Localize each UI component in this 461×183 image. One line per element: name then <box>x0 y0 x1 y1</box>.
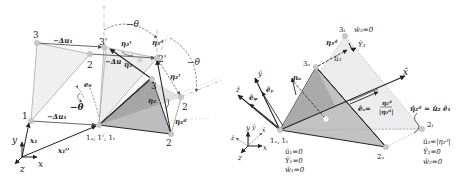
label-eta3-d-right: η₃ᵈ <box>326 38 338 47</box>
label-eta2-t: η₂ᵗ <box>170 72 181 81</box>
label-eta2-d-eq: η̂₂ᵈ = û₂ ê₁ <box>410 104 451 113</box>
label-node-2-t-right: 2ₜ <box>427 121 433 129</box>
label-node-2: 2 <box>87 60 93 70</box>
label-node-1: 1 <box>22 111 28 121</box>
axis-z-label-right: z <box>237 154 242 162</box>
label-eta2-d: η₂ᵈ <box>175 117 187 126</box>
label-e0: e₀ <box>84 80 92 89</box>
label-e-y: êᵧ <box>266 85 274 94</box>
label-du-top: −Δu₁ <box>53 36 72 45</box>
node-2 <box>87 51 92 56</box>
label-node-3-t: 3ₜ <box>339 26 345 34</box>
label-e-z: êᵩ <box>249 93 257 102</box>
label-e-x-denominator: |η₂ᵈ| <box>379 108 393 116</box>
node-1-o <box>96 122 101 127</box>
label-v3: Ŷ₃ <box>358 40 366 49</box>
label-node-2-o-right: 2ₒ <box>377 153 384 161</box>
node-2-t <box>178 94 183 99</box>
bc-node2-u: û₂=|η₂ᵈ| <box>423 138 451 146</box>
label-normal-no: nₒ <box>293 73 301 82</box>
label-y-hat: ŷ <box>257 70 263 78</box>
label-node-1-o-right: 1ₒ, 1ₜ <box>270 137 288 145</box>
label-u3: û₃ <box>334 55 342 63</box>
label-node-1-o: 1ₒ, 1', 1ₜ <box>86 134 115 142</box>
axis-yhat-label-right: ŷ <box>251 123 256 131</box>
label-z-hat: ẑ <box>235 86 240 94</box>
left-panel: 3 2 1 3' 2' 3 2 2 1ₒ, 1', 1ₜ −Δu₁ −Δu −Δ… <box>11 5 222 174</box>
node-2-o-right <box>383 144 388 149</box>
node-3-o-right <box>313 64 318 69</box>
label-node-2-t: 2 <box>182 102 188 112</box>
label-theta-left: −θ <box>70 102 84 112</box>
label-du-mid: −Δu <box>105 57 121 66</box>
label-e-x: êₓ= <box>358 104 371 113</box>
bc-node1-v: Ŷ₁=0 <box>285 156 303 165</box>
node-3-t-right <box>342 33 347 38</box>
node-3 <box>34 40 39 45</box>
bc-node2-w: ŵ₂=0 <box>423 158 443 166</box>
bc-node2-v: Ŷ₂=0 <box>423 147 441 156</box>
label-node-2-o: 2 <box>166 138 172 148</box>
axis-zhat-label-right: ẑ <box>230 134 235 141</box>
bc-node1-w: ŵ₁=0 <box>285 166 305 174</box>
axis-xhat-label-right: x̂ <box>262 126 266 133</box>
label-du-bot: −Δu₁ <box>47 112 66 121</box>
axis-x-label-right: x <box>263 144 267 152</box>
label-x-hat: x̂ <box>403 67 408 77</box>
diagram-canvas: 3 2 1 3' 2' 3 2 2 1ₒ, 1', 1ₜ −Δu₁ −Δu −Δ… <box>0 0 461 183</box>
axis-y-label: y <box>11 135 18 145</box>
label-x1: x₁ <box>29 136 37 145</box>
label-theta-right: −θ <box>187 57 201 67</box>
label-node-3: 3 <box>33 30 39 40</box>
node-1 <box>28 118 33 123</box>
label-e-x-numerator: η₂ᵈ <box>382 99 392 107</box>
label-node-3-prime: 3' <box>99 37 107 47</box>
label-eta2: η₂ <box>148 96 156 105</box>
label-w3: ŵ₃=0 <box>354 26 374 34</box>
label-node-3-o: 3 <box>151 81 157 91</box>
node-1-o-right <box>277 127 282 132</box>
label-eta3-d: η₃ᵈ <box>152 38 164 47</box>
label-theta-top: −θ <box>126 19 140 29</box>
label-eta3: η₃ <box>124 60 132 69</box>
node-2-o <box>168 131 173 136</box>
axis-x-label: x <box>38 159 43 169</box>
label-x1o: x₁ᴼ <box>57 146 69 155</box>
node-2-t-right <box>419 126 424 131</box>
label-eta3-t: η₃ᵗ <box>121 39 132 48</box>
axis-y-label-right: y <box>245 124 251 132</box>
right-panel: 3ₜ ŵ₃=0 Ŷ₃ û₃ η₃ᵈ 3ₒ nₒ x̂ ŷ ẑ êᵧ êᵩ êₓ… <box>230 26 451 174</box>
label-node-2-prime: 2' <box>158 54 166 64</box>
label-node-3-o-right: 3ₒ <box>303 60 310 68</box>
axis-z-label: z <box>19 164 25 174</box>
bc-node1-u: û₁=0 <box>285 148 303 156</box>
